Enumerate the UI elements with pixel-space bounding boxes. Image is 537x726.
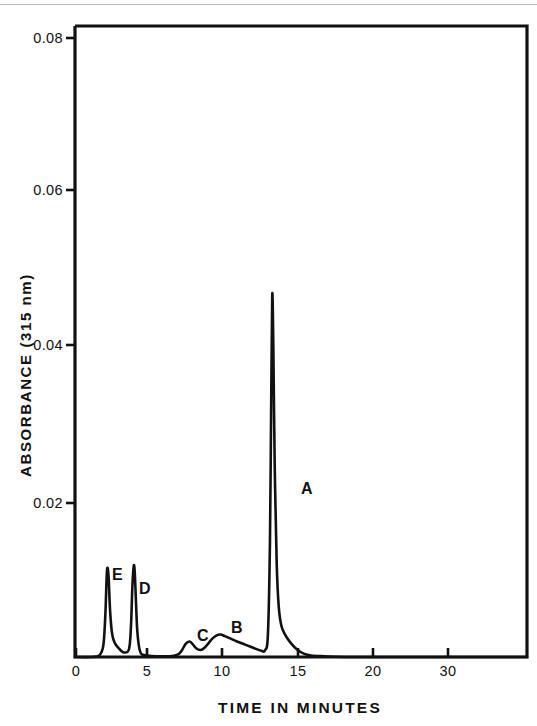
x-axis-title: TIME IN MINUTES xyxy=(218,699,382,716)
y-tick-label-1: 0.02 xyxy=(33,495,63,511)
peak-label-b: B xyxy=(231,619,243,636)
x-tick-label-20: 20 xyxy=(365,663,382,679)
plot-frame xyxy=(75,26,527,657)
y-tick-label-4: 0.08 xyxy=(33,30,63,46)
y-axis-title: ABSORBANCE (315 nm) xyxy=(17,273,34,477)
y-tick-label-2: 0.04 xyxy=(33,337,63,353)
chromatogram-figure: 0.08 0.06 0.04 0.02 0 5 10 15 20 30 ABSO… xyxy=(0,0,537,726)
peak-label-d: D xyxy=(139,580,151,597)
x-tick-label-30: 30 xyxy=(440,663,457,679)
peak-label-a: A xyxy=(301,480,313,497)
chromatogram-plot: 0.08 0.06 0.04 0.02 0 5 10 15 20 30 ABSO… xyxy=(0,0,537,726)
chromatogram-trace xyxy=(75,293,527,657)
x-tick-label-15: 15 xyxy=(290,663,307,679)
y-axis-tick-labels: 0.08 0.06 0.04 0.02 xyxy=(33,30,63,511)
x-tick-label-10: 10 xyxy=(214,663,231,679)
x-tick-label-0: 0 xyxy=(72,663,80,679)
y-tick-label-3: 0.06 xyxy=(33,182,63,198)
x-tick-label-5: 5 xyxy=(143,663,151,679)
peak-label-e: E xyxy=(112,566,123,583)
peak-annotations: E D C B A xyxy=(112,480,313,644)
x-axis-tick-labels: 0 5 10 15 20 30 xyxy=(72,663,457,679)
peak-label-c: C xyxy=(197,627,209,644)
